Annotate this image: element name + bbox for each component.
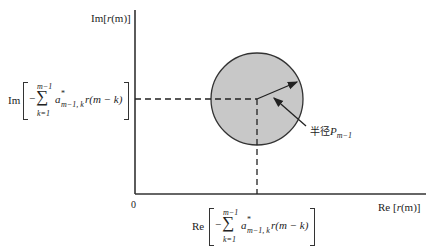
- x-label-prefix: Re [: [378, 201, 397, 213]
- radius-symbol: P: [330, 125, 337, 137]
- y-label-suffix: ]: [127, 12, 131, 24]
- im-coef: a: [55, 93, 61, 105]
- im-left-bracket: [23, 82, 28, 120]
- re-op: Re: [192, 220, 204, 232]
- re-term: r(m − k): [271, 219, 308, 231]
- radius-sub: m−1: [337, 131, 352, 140]
- re-minus: −: [215, 218, 221, 230]
- im-op: Im: [8, 94, 20, 106]
- x-label-arg: (m): [401, 201, 417, 213]
- re-coef: a: [241, 219, 247, 231]
- y-label-arg: (m): [111, 12, 127, 24]
- re-right-bracket: [310, 208, 315, 246]
- im-sum-lower: k=1: [37, 109, 50, 118]
- im-term: r(m − k): [85, 93, 122, 105]
- x-label-suffix: ]: [417, 201, 421, 213]
- im-projection-expression: Im − m−1 ∑ k=1 a * m−1, k r(m − k): [8, 78, 130, 120]
- x-axis-label: Re [r(m)]: [378, 201, 420, 213]
- im-coef-sup: *: [61, 89, 65, 98]
- re-projection-expression: Re − m−1 ∑ k=1 a * m−1, k r(m − k): [192, 204, 314, 246]
- re-sum-lower: k=1: [223, 235, 236, 244]
- im-right-bracket: [124, 82, 129, 120]
- re-coef-sup: *: [247, 215, 251, 224]
- y-axis-label: Im[r(m)]: [91, 12, 131, 24]
- re-sum-symbol: ∑: [222, 213, 234, 233]
- y-label-prefix: Im[: [91, 12, 107, 24]
- im-sum-symbol: ∑: [36, 87, 48, 107]
- im-coef-sub: m−1, k: [61, 100, 84, 109]
- radius-label: 半径Pm−1: [310, 123, 352, 140]
- re-left-bracket: [209, 208, 214, 246]
- re-coef-sub: m−1, k: [247, 226, 270, 235]
- origin-label: 0: [131, 199, 136, 210]
- im-minus: −: [29, 92, 35, 104]
- radius-label-text: 半径: [310, 126, 330, 137]
